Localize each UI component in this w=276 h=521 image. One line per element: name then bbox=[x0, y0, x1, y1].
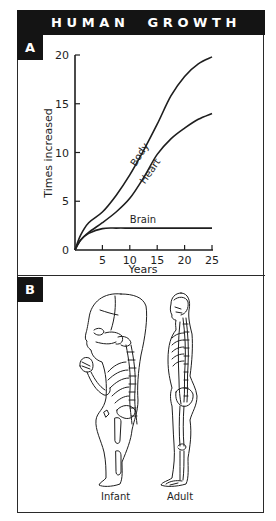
skeleton-illustration bbox=[0, 0, 276, 521]
adult-figure bbox=[161, 293, 197, 486]
infant-caption: Infant bbox=[101, 491, 130, 502]
infant-figure bbox=[80, 294, 147, 487]
adult-caption: Adult bbox=[167, 491, 193, 502]
